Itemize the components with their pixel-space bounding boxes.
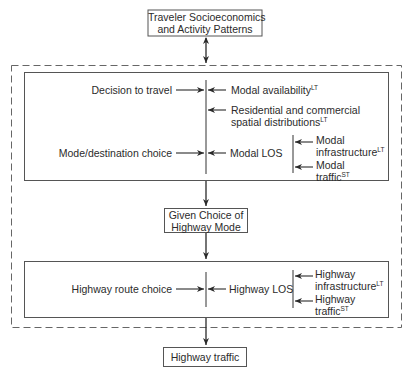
decision-to-travel-label: Decision to travel (91, 84, 172, 96)
residential-label: Residential and commercial spatial distr… (231, 104, 360, 128)
highway-route-choice-label: Highway route choice (72, 283, 172, 295)
highway-infrastructure-label: Highway infrastructureLT (315, 268, 383, 292)
given-choice-text: Given Choice of Highway Mode (164, 209, 248, 233)
mode-destination-choice-label: Mode/destination choice (59, 147, 172, 159)
top-box-text: Traveler Socioeconomics and Activity Pat… (148, 11, 262, 35)
modal-availability-label: Modal availabilityLT (231, 84, 318, 96)
top-box-line2: and Activity Patterns (148, 23, 262, 35)
highway-traffic-input-label: Highway trafficST (315, 293, 355, 317)
modal-los-label: Modal LOS (230, 147, 283, 159)
diagram-canvas (0, 0, 412, 380)
modal-infrastructure-label: Modal infrastructureLT (316, 134, 384, 158)
highway-traffic-output-label: Highway traffic (163, 351, 247, 363)
highway-los-label: Highway LOS (229, 283, 293, 295)
modal-traffic-label: Modal trafficST (316, 159, 350, 183)
top-box-line1: Traveler Socioeconomics (148, 11, 262, 23)
